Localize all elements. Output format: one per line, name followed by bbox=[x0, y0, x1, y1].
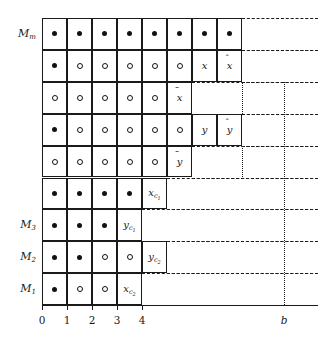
filled-dot-marker bbox=[52, 287, 57, 292]
open-dot-marker bbox=[77, 127, 83, 133]
filled-dot-marker bbox=[52, 31, 57, 36]
grid-cell-open-dot bbox=[167, 114, 192, 146]
row-boundary-dash bbox=[242, 50, 318, 51]
grid-cell-open-dot bbox=[117, 82, 142, 114]
grid-cell-filled-dot bbox=[42, 273, 67, 305]
open-dot-marker bbox=[127, 63, 133, 69]
grid-cell-open-dot bbox=[67, 146, 92, 178]
grid-cell-filled-dot bbox=[67, 178, 92, 210]
filled-dot-marker bbox=[77, 31, 82, 36]
open-dot-marker bbox=[77, 63, 83, 69]
cell-math-label: ȳ bbox=[177, 157, 183, 167]
row-extension-dash bbox=[242, 18, 318, 19]
filled-dot-marker bbox=[152, 31, 157, 36]
grid-cell-filled-dot bbox=[42, 18, 67, 50]
grid-cell-filled-dot bbox=[42, 178, 67, 210]
filled-dot-marker bbox=[77, 191, 82, 196]
row-label-subscript: 1 bbox=[32, 288, 36, 296]
row-label-row-Mm: Mm bbox=[18, 28, 36, 39]
open-dot-marker bbox=[102, 159, 108, 165]
row-boundary-dash bbox=[242, 146, 318, 147]
grid-cell-filled-dot bbox=[92, 209, 117, 241]
grid-cell-filled-dot bbox=[67, 18, 92, 50]
open-dot-marker bbox=[52, 95, 58, 101]
grid-cell-open-dot bbox=[117, 241, 142, 273]
grid-cell-label: x̄ bbox=[167, 82, 192, 114]
open-dot-marker bbox=[77, 95, 83, 101]
filled-dot-marker bbox=[227, 31, 232, 36]
filled-dot-marker bbox=[102, 31, 107, 36]
row-label-subscript: 2 bbox=[32, 256, 36, 264]
cell-math-label: yc1 bbox=[123, 220, 135, 230]
x-axis-tick bbox=[117, 306, 118, 310]
grid-cell-label: xc2 bbox=[117, 273, 142, 305]
cell-math-label: x bbox=[202, 61, 208, 71]
filled-dot-marker bbox=[127, 31, 132, 36]
x-axis-tick-label: 3 bbox=[105, 315, 129, 326]
open-dot-marker bbox=[127, 127, 133, 133]
row-label-row-M2: M2 bbox=[20, 251, 36, 262]
grid-cell-open-dot bbox=[117, 50, 142, 82]
grid-cell-open-dot bbox=[92, 241, 117, 273]
open-dot-marker bbox=[102, 63, 108, 69]
cell-math-label: ŷ bbox=[227, 125, 233, 135]
grid-cell-open-dot bbox=[117, 114, 142, 146]
cell-math-label: xc2 bbox=[123, 284, 135, 294]
grid-cell-open-dot bbox=[92, 273, 117, 305]
grid-cell-open-dot bbox=[67, 114, 92, 146]
x-axis-tick-label: 0 bbox=[30, 315, 54, 326]
grid-cell-open-dot bbox=[42, 146, 67, 178]
row-label-base: M bbox=[20, 218, 31, 231]
grid-cell-open-dot bbox=[92, 146, 117, 178]
filled-dot-marker bbox=[102, 191, 107, 196]
staircase-dotted-continuation bbox=[242, 146, 243, 178]
x-axis-tick bbox=[42, 306, 43, 310]
grid-cell-filled-dot bbox=[192, 18, 217, 50]
grid-cell-filled-dot bbox=[217, 18, 242, 50]
row-boundary-dash bbox=[242, 82, 318, 83]
filled-dot-marker bbox=[52, 63, 57, 68]
grid-cell-label: ŷ bbox=[217, 114, 242, 146]
open-dot-marker bbox=[102, 127, 108, 133]
grid-cell-filled-dot bbox=[117, 178, 142, 210]
b-marker-dotted-line bbox=[284, 82, 285, 305]
cell-math-label: xc1 bbox=[148, 188, 160, 198]
grid-cell-label: y bbox=[192, 114, 217, 146]
open-dot-marker bbox=[77, 159, 83, 165]
grid-cell-filled-dot bbox=[167, 18, 192, 50]
filled-dot-marker bbox=[52, 223, 57, 228]
x-axis-line bbox=[42, 305, 318, 306]
cell-math-label: x̂ bbox=[227, 61, 233, 71]
grid-cell-label: yc1 bbox=[117, 209, 142, 241]
cell-math-label: y bbox=[202, 125, 208, 135]
row-label-row-M1: M1 bbox=[20, 283, 36, 294]
open-dot-marker bbox=[102, 95, 108, 101]
x-axis-end-label: b bbox=[272, 315, 296, 326]
grid-cell-filled-dot bbox=[117, 18, 142, 50]
row-label-base: M bbox=[20, 282, 31, 295]
open-dot-marker bbox=[127, 95, 133, 101]
staircase-dotted-continuation bbox=[242, 82, 243, 114]
grid-cell-filled-dot bbox=[42, 241, 67, 273]
grid-cell-label: x bbox=[192, 50, 217, 82]
filled-dot-marker bbox=[52, 127, 57, 132]
row-boundary-dash bbox=[167, 241, 318, 242]
open-dot-marker bbox=[152, 63, 158, 69]
grid-cell-filled-dot bbox=[42, 50, 67, 82]
grid-cell-open-dot bbox=[92, 50, 117, 82]
grid-cell-open-dot bbox=[92, 82, 117, 114]
open-dot-marker bbox=[177, 63, 183, 69]
open-dot-marker bbox=[102, 254, 108, 260]
row-label-subscript: 3 bbox=[32, 224, 36, 232]
grid-cell-label: ȳ bbox=[167, 146, 192, 178]
grid-cell-label: xc1 bbox=[142, 178, 167, 210]
grid-cell-filled-dot bbox=[142, 18, 167, 50]
open-dot-marker bbox=[102, 286, 108, 292]
filled-dot-marker bbox=[102, 223, 107, 228]
open-dot-marker bbox=[152, 159, 158, 165]
x-axis-tick-label: 2 bbox=[80, 315, 104, 326]
filled-dot-marker bbox=[77, 223, 82, 228]
figure-canvas: Mmxx̂x̄yŷȳxc1yc1M3yc2M2xc2M101234b bbox=[0, 0, 327, 339]
filled-dot-marker bbox=[52, 255, 57, 260]
row-label-subscript: m bbox=[29, 33, 36, 41]
